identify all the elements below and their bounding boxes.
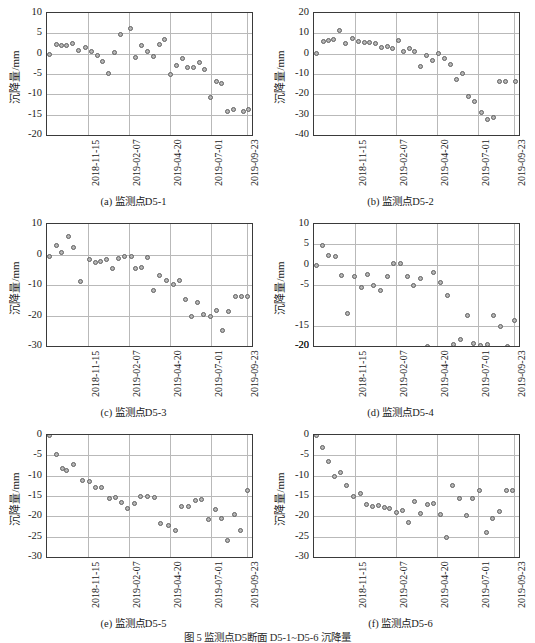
data-point [382,505,387,510]
data-point [339,273,344,278]
x-tick-label: 2019-07-01 [214,350,224,397]
gridline-vertical [211,224,212,346]
y-tick-mark [313,537,314,538]
y-tick-label: -15 [8,109,42,119]
x-tick-mark [247,135,248,136]
y-tick-label: -10 [275,470,309,480]
gridline-horizontal [314,54,519,55]
gridline-vertical [211,435,212,557]
x-tick-label: 2019-09-23 [250,561,260,608]
y-tick-mark [46,516,47,517]
gridline-vertical [170,435,171,557]
data-point [470,496,475,501]
x-tick-label: 2019-02-07 [132,139,142,186]
subplot-caption: (a) 监测点D5-1 [0,196,267,208]
gridline-vertical [88,13,89,135]
y-tick-mark [46,496,47,497]
data-point [365,272,370,277]
x-tick-mark [211,346,212,347]
gridline-vertical [478,224,479,346]
gridline-horizontal [47,537,252,538]
data-point [177,278,182,283]
data-point [445,293,450,298]
y-tick-mark [46,33,47,34]
data-point [343,41,348,46]
x-tick-mark [478,557,479,558]
data-point [320,243,325,248]
data-point [54,452,59,457]
y-tick-label: -5 [275,449,309,459]
y-tick-label: -10 [275,68,309,78]
plot-area [46,12,253,136]
plot-area [313,223,520,347]
x-tick-mark [514,135,515,136]
y-tick-label: 0 [8,429,42,439]
data-point [472,99,477,104]
data-point [214,79,219,84]
gridline-horizontal [47,54,252,55]
data-point [138,494,143,499]
data-point [70,41,75,46]
data-point [442,56,447,61]
y-tick-mark [313,115,314,116]
data-point [186,504,191,509]
data-point [444,535,449,540]
gridline-horizontal [314,537,519,538]
data-point [116,256,121,261]
data-point [466,94,471,99]
data-point [491,115,496,120]
data-point [451,342,456,347]
x-tick-mark [355,135,356,136]
y-tick-label: -25 [8,531,42,541]
data-point [378,288,383,293]
data-point [157,273,162,278]
data-point [106,71,111,76]
data-point [512,318,517,323]
gridline-vertical [129,435,130,557]
gridline-vertical [514,435,515,557]
gridline-vertical [355,13,356,135]
x-tick-mark [396,346,397,347]
data-point [129,254,134,259]
data-point [344,483,349,488]
data-point [407,46,412,51]
y-tick-label: -10 [8,88,42,98]
gridline-horizontal [314,326,519,327]
data-point [326,253,331,258]
data-point [145,494,150,499]
data-point [485,342,490,347]
gridline-vertical [247,13,248,135]
data-point [314,263,319,268]
y-tick-label: -5 [8,449,42,459]
gridline-horizontal [47,316,252,317]
x-tick-mark [478,135,479,136]
data-point [460,71,465,76]
x-tick-mark [514,557,515,558]
data-point [145,255,150,260]
gridline-vertical [129,13,130,135]
data-point [505,344,510,347]
data-point [173,528,178,533]
y-tick-mark [313,455,314,456]
data-point [47,52,52,57]
gridline-vertical [88,224,89,346]
data-point [405,274,410,279]
data-point [93,485,98,490]
data-point [179,504,184,509]
data-point [513,79,518,84]
data-point [345,311,350,316]
plot-area [46,434,253,558]
gridline-horizontal [47,285,252,286]
gridline-vertical [355,224,356,346]
y-tick-label: 10 [275,218,309,228]
data-point [412,499,417,504]
figure-caption: 图 5 监测点D5断面 D5-1~D5-6 沉降量 [0,632,535,643]
y-tick-mark [46,346,47,347]
data-point [245,294,250,299]
data-point [430,58,435,63]
y-tick-mark [313,496,314,497]
y-tick-label: -20 [8,310,42,320]
x-tick-label: 2019-04-20 [440,561,450,608]
gridline-vertical [437,13,438,135]
gridline-vertical [437,224,438,346]
